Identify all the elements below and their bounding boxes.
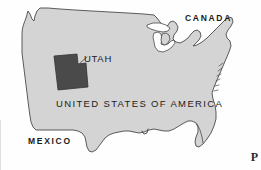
country-label-mexico: MEXICO bbox=[28, 137, 72, 146]
corner-page-mark: P bbox=[251, 151, 258, 163]
state-label-utah: UTAH bbox=[84, 54, 112, 64]
country-label-canada: CANADA bbox=[185, 14, 232, 23]
left-edge-rule bbox=[0, 120, 1, 170]
usa-mainland-path bbox=[22, 8, 233, 152]
country-label-united-states: UNITED STATES OF AMERICA bbox=[56, 99, 223, 109]
united-states-shape bbox=[22, 8, 233, 152]
utah-locator-map: CANADA MEXICO UNITED STATES OF AMERICA U… bbox=[0, 0, 261, 170]
